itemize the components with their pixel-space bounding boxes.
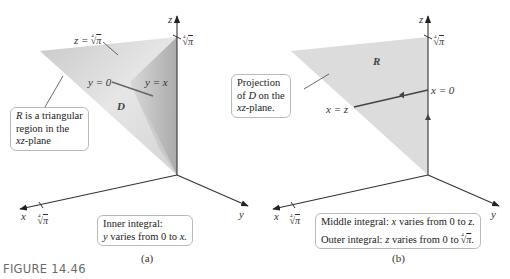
z-tick-label-a: 4√π — [183, 31, 193, 48]
callout-line-2: region in the — [16, 123, 83, 136]
y-axis-b — [428, 175, 499, 206]
root-index: 4 — [183, 34, 186, 39]
text: varies from 0 to — [108, 231, 180, 242]
z-tick-label-b: 4√π — [434, 31, 444, 48]
radicand: π — [439, 36, 444, 47]
var-xz: xz — [237, 102, 246, 113]
x-axis-a — [20, 175, 177, 209]
callout-inner-integral: Inner integral: y varies from 0 to x. — [97, 215, 193, 246]
var-z: z. — [468, 216, 475, 227]
root-index: 4 — [434, 34, 437, 39]
radicand: π — [96, 35, 101, 46]
x-tick-label-b: 4√π — [290, 210, 300, 227]
y-axis-label-b: y — [491, 208, 496, 220]
root-index: 4 — [38, 213, 41, 218]
y-zero-label: y = 0 — [88, 76, 111, 88]
x-axis-label-a: x — [21, 210, 26, 222]
var-xz: xz — [16, 135, 25, 146]
leader-region-r — [45, 76, 63, 107]
x-zero-label: x = 0 — [431, 84, 454, 96]
callout-line-1: Projection — [237, 77, 285, 90]
callout-line-1: Inner integral: — [103, 218, 187, 231]
text: is a triangular — [22, 110, 82, 121]
radicand: π — [295, 215, 300, 226]
x-axis-b — [273, 175, 428, 209]
callout-line-1: R is a triangular — [16, 110, 83, 123]
callout-line-2: Outer integral: z varies from 0 to 4√π. — [321, 229, 475, 247]
text: -plane. — [246, 102, 275, 113]
callout-line-3: xz-plane. — [237, 102, 285, 115]
plane-top-eq: z = — [74, 34, 91, 46]
callout-line-2: y varies from 0 to x. — [103, 231, 187, 244]
radicand: π — [188, 36, 193, 47]
text: Outer integral: — [321, 234, 385, 245]
callout-region-r: R is a triangular region in the xz-plane — [10, 107, 89, 151]
text: varies from 0 to — [389, 234, 461, 245]
caption-a: (a) — [141, 252, 153, 264]
region-d-label: D — [117, 100, 125, 112]
y-eq-x-label: y = x — [145, 76, 168, 88]
text: of — [237, 90, 248, 101]
var-x: x. — [180, 231, 187, 242]
caption-b: (b) — [392, 252, 405, 264]
callout-projection: Projection of D on the xz-plane. — [231, 74, 291, 118]
z-axis-label-a: z — [168, 13, 172, 25]
plane-top-label: z = 4√π — [74, 30, 101, 47]
x-tick-label-a: 4√π — [38, 210, 48, 227]
y-axis-label-a: y — [239, 208, 244, 220]
callout-line-2: of D on the — [237, 90, 285, 103]
y-axis-a — [177, 175, 248, 206]
x-eq-z-label: x = z — [326, 103, 348, 115]
root-index: 4 — [290, 213, 293, 218]
callout-line-1: Middle integral: x varies from 0 to z. — [321, 216, 475, 229]
radicand: π — [43, 215, 48, 226]
z-axis-label-b: z — [419, 13, 423, 25]
region-r-label: R — [373, 55, 380, 67]
figure-title: FIGURE 14.46 — [3, 262, 86, 276]
callout-middle-outer-integral: Middle integral: x varies from 0 to z. O… — [315, 213, 481, 249]
callout-line-3: xz-plane — [16, 135, 83, 148]
text: on the — [256, 90, 285, 101]
text: -plane — [25, 135, 51, 146]
text: . — [471, 234, 474, 245]
text: varies from 0 to — [396, 216, 468, 227]
x-axis-label-b: x — [274, 210, 279, 222]
panel-b-diagram — [273, 16, 499, 209]
var-d: D — [248, 90, 256, 101]
root-index: 4 — [461, 232, 464, 237]
root-index: 4 — [91, 33, 94, 38]
text: Middle integral: — [321, 216, 392, 227]
